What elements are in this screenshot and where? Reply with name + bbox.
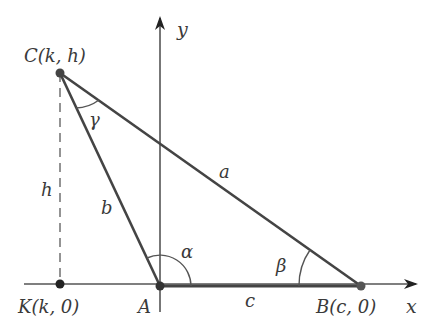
triangle-diagram: y x C(k, h) K(k, 0) A B(c, 0) a b c h α … xyxy=(0,0,428,328)
point-a-label: A xyxy=(136,296,151,317)
angle-gamma-label: γ xyxy=(89,109,100,130)
angle-alpha-label: α xyxy=(181,241,193,262)
side-a xyxy=(60,73,361,286)
angle-beta-label: β xyxy=(275,255,286,276)
angle-gamma-arc xyxy=(76,100,99,108)
point-a xyxy=(156,282,165,291)
point-b-label: B(c, 0) xyxy=(315,296,376,317)
point-c-label: C(k, h) xyxy=(24,45,86,66)
x-axis-label: x xyxy=(406,295,417,317)
point-c xyxy=(56,69,65,78)
point-b xyxy=(357,282,366,291)
side-b xyxy=(60,73,160,286)
side-a-label: a xyxy=(219,161,230,182)
angle-beta-arc xyxy=(299,250,310,286)
point-k-label: K(k, 0) xyxy=(17,296,79,317)
y-axis-label: y xyxy=(176,18,188,40)
diagram-canvas: y x C(k, h) K(k, 0) A B(c, 0) a b c h α … xyxy=(0,0,428,328)
side-c-label: c xyxy=(245,290,255,311)
side-b-label: b xyxy=(101,197,113,218)
height-h-label: h xyxy=(41,179,53,200)
point-k xyxy=(56,280,65,289)
